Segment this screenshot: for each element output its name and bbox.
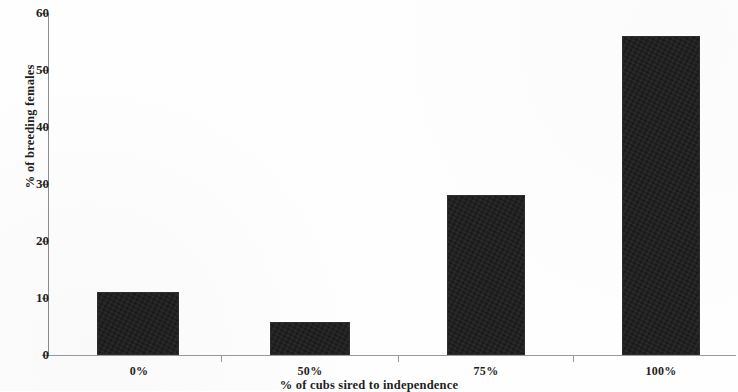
y-tick-60: 60 [0, 13, 49, 14]
y-tick-label: 60 [11, 6, 49, 19]
y-tick-20: 20 [0, 241, 49, 242]
x-tick-mark [573, 356, 574, 362]
y-tick-label: 20 [11, 234, 49, 247]
y-tick-label: 0 [11, 348, 49, 361]
y-axis-title: % of breeding females [24, 26, 37, 226]
x-category-label-50pct: 50% [270, 365, 350, 377]
y-tick-0: 0 [0, 355, 49, 356]
x-axis-line [48, 355, 736, 356]
y-tick-label: 10 [11, 291, 49, 304]
x-axis-title: % of cubs sired to independence [0, 379, 738, 392]
bar-75pct [447, 195, 525, 355]
x-category-label-0pct: 0% [98, 365, 180, 377]
x-category-label-100pct: 100% [622, 365, 700, 377]
x-category-label-75pct: 75% [447, 365, 525, 377]
y-tick-10: 10 [0, 298, 49, 299]
x-tick-mark [221, 356, 222, 362]
bar-50pct [270, 322, 350, 355]
x-tick-mark [398, 356, 399, 362]
bar-100pct [622, 36, 700, 355]
bar-0pct [97, 292, 179, 355]
